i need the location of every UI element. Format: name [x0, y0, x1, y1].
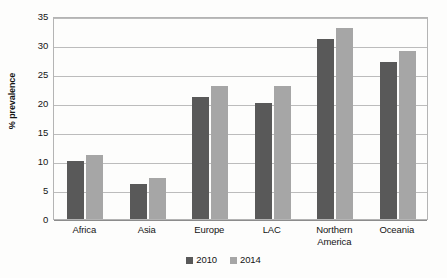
y-tick-label-5: 5: [18, 186, 48, 196]
y-tick-label-35: 35: [18, 12, 48, 22]
y-tick-label-10: 10: [18, 157, 48, 167]
legend-swatch-icon-2010: [186, 257, 193, 264]
chart-legend: 20102014: [0, 255, 447, 265]
bar-africa-2010: [67, 161, 84, 219]
bar-lac-2014: [274, 86, 291, 219]
y-axis-tick-labels: 35302520151050: [18, 17, 48, 220]
bar-asia-2010: [130, 184, 147, 219]
plot-area: [53, 17, 428, 220]
legend-label-2010: 2010: [196, 255, 217, 265]
y-tick-label-15: 15: [18, 128, 48, 138]
bar-africa-2014: [86, 155, 103, 219]
x-axis-label-oceania: Oceania: [357, 224, 437, 236]
y-axis-title: % prevalence: [7, 56, 17, 146]
bar-lac-2010: [255, 103, 272, 219]
legend-item-2014[interactable]: 2014: [230, 255, 261, 265]
y-tick-label-20: 20: [18, 99, 48, 109]
legend-swatch-icon-2014: [230, 257, 237, 264]
bar-oceania-2014: [399, 51, 416, 219]
bar-northern-america-2010: [317, 39, 334, 219]
bar-northern-america-2014: [336, 28, 353, 219]
y-tick-label-30: 30: [18, 41, 48, 51]
x-label-line: Oceania: [357, 224, 437, 236]
legend-label-2014: 2014: [240, 255, 261, 265]
x-label-line: America: [294, 236, 374, 248]
bar-chart-figure: % prevalence 35302520151050 AfricaAsiaEu…: [0, 0, 447, 278]
bar-europe-2010: [192, 97, 209, 219]
bar-asia-2014: [149, 178, 166, 219]
legend-item-2010[interactable]: 2010: [186, 255, 217, 265]
gridline-0: [54, 220, 427, 221]
bar-europe-2014: [211, 86, 228, 219]
y-tick-label-25: 25: [18, 70, 48, 80]
bars-layer: [54, 18, 427, 219]
bar-oceania-2010: [380, 62, 397, 219]
